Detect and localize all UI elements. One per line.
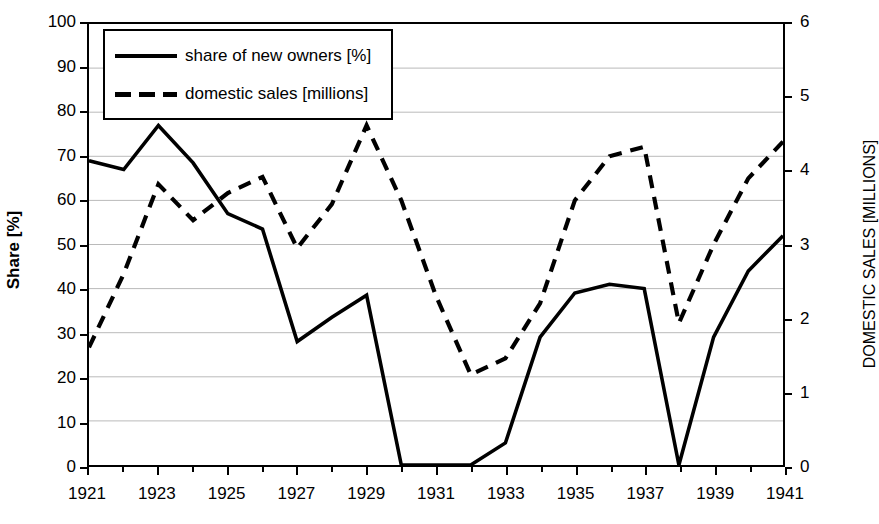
y-tick-label-left: 80 [18,102,76,119]
x-tick-label: 1933 [471,485,541,502]
tick-mark [785,22,792,24]
tick-mark [80,467,87,469]
tick-mark [576,467,578,475]
tick-mark [80,245,87,247]
tick-mark [750,467,752,472]
tick-mark [192,467,194,472]
tick-mark [80,156,87,158]
tick-mark [80,334,87,336]
y-tick-label-right: 1 [800,384,840,401]
x-tick-label: 1939 [680,485,750,502]
x-tick-label: 1923 [122,485,192,502]
y-tick-label-right: 6 [800,13,840,30]
y-tick-label-left: 90 [18,58,76,75]
y-tick-label-left: 30 [18,325,76,342]
tick-mark [785,245,792,247]
y-tick-label-right: 2 [800,310,840,327]
tick-mark [80,111,87,113]
y-tick-label-right: 5 [800,87,840,104]
tick-mark [331,467,333,472]
tick-mark [80,200,87,202]
legend-label-share: share of new owners [%] [185,46,371,66]
tick-mark [506,467,508,475]
x-tick-label: 1927 [261,485,331,502]
tick-mark [541,467,543,472]
legend-key-dashed-line-icon [115,87,177,101]
tick-mark [122,467,124,472]
legend-key-solid-line-icon [115,49,177,63]
tick-mark [401,467,403,472]
tick-mark [785,393,792,395]
tick-mark [80,289,87,291]
tick-mark [785,467,787,475]
tick-mark [87,467,89,475]
y-tick-label-right: 0 [800,458,840,475]
series-line-share [89,125,783,465]
tick-mark [715,467,717,475]
tick-mark [785,319,792,321]
x-tick-label: 1921 [52,485,122,502]
legend-item-share: share of new owners [%] [115,41,371,71]
tick-mark [80,423,87,425]
y-axis-right-title: DOMESTIC SALES [MILLIONS] [861,104,879,404]
x-tick-label: 1925 [192,485,262,502]
y-tick-label-left: 10 [18,414,76,431]
x-tick-label: 1935 [541,485,611,502]
tick-mark [80,378,87,380]
y-tick-label-left: 0 [18,458,76,475]
y-tick-label-left: 20 [18,369,76,386]
tick-mark [680,467,682,472]
y-tick-label-left: 100 [18,13,76,30]
y-tick-label-left: 60 [18,191,76,208]
tick-mark [611,467,613,472]
tick-mark [262,467,264,472]
tick-mark [785,96,792,98]
legend-item-sales: domestic sales [millions] [115,79,368,109]
tick-mark [157,467,159,475]
tick-mark [80,67,87,69]
x-tick-label: 1941 [750,485,820,502]
x-tick-label: 1937 [610,485,680,502]
tick-mark [296,467,298,475]
tick-mark [645,467,647,475]
x-tick-label: 1929 [331,485,401,502]
tick-mark [785,170,792,172]
tick-mark [471,467,473,472]
tick-mark [366,467,368,475]
x-tick-label: 1931 [401,485,471,502]
y-tick-label-left: 50 [18,236,76,253]
chart-legend: share of new owners [%] domestic sales [… [103,29,393,120]
legend-label-sales: domestic sales [millions] [185,84,368,104]
y-tick-label-right: 3 [800,236,840,253]
y-tick-label-right: 4 [800,161,840,178]
tick-mark [80,22,87,24]
y-tick-label-left: 40 [18,280,76,297]
y-tick-label-left: 70 [18,147,76,164]
tick-mark [227,467,229,475]
tick-mark [436,467,438,475]
